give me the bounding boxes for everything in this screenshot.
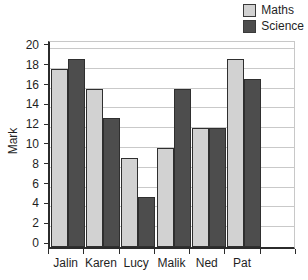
x-axis-label-ned: Ned — [189, 256, 224, 270]
y-axis-tick: 8 — [32, 158, 48, 170]
x-axis-labels: JalinKarenLucyMalikNedPat — [48, 256, 295, 274]
x-axis-label-karen: Karen — [83, 256, 118, 270]
legend-label-science: Science — [261, 20, 304, 32]
x-axis-tick-mark — [224, 249, 225, 254]
bar-chart: Maths Science Mark 02468101214161820 Jal… — [0, 0, 308, 280]
bar-jalin-maths — [51, 69, 68, 247]
y-axis-tick-label: 4 — [32, 197, 44, 209]
x-axis-tick-mark — [260, 249, 261, 254]
chart-legend: Maths Science — [243, 3, 304, 33]
legend-swatch-maths-icon — [243, 4, 256, 17]
x-axis-label-pat: Pat — [224, 256, 259, 270]
x-axis-label-lucy: Lucy — [119, 256, 154, 270]
x-axis-tick-mark — [48, 249, 49, 254]
x-axis-label-jalin: Jalin — [48, 256, 83, 270]
bar-ned-maths — [192, 128, 209, 247]
bar-malik-maths — [157, 148, 174, 247]
x-axis-tick-mark — [189, 249, 190, 254]
y-axis-tick: 4 — [32, 197, 48, 209]
x-axis-label-malik: Malik — [154, 256, 189, 270]
plot-area — [48, 41, 295, 249]
y-axis-tick-label: 16 — [26, 79, 44, 91]
bar-ned-science — [209, 128, 226, 247]
y-axis-tick-label: 8 — [32, 158, 44, 170]
bar-jalin-science — [68, 59, 85, 247]
y-axis-tick-label: 0 — [32, 237, 44, 249]
legend-swatch-science-icon — [243, 20, 256, 33]
y-axis-ticks: 02468101214161820 — [0, 41, 48, 249]
y-axis-tick-label: 12 — [26, 118, 44, 130]
y-axis-tick-label: 18 — [26, 59, 44, 71]
y-axis-tick: 14 — [26, 98, 48, 110]
bar-karen-science — [103, 118, 120, 247]
x-axis-tick-mark — [295, 249, 296, 254]
x-axis-tick-mark — [83, 249, 84, 254]
y-axis-tick: 0 — [32, 237, 48, 249]
y-axis-tick: 12 — [26, 118, 48, 130]
legend-label-maths: Maths — [261, 4, 294, 16]
bar-malik-science — [174, 89, 191, 247]
bars-layer — [50, 42, 294, 247]
legend-entry-maths: Maths — [243, 3, 294, 17]
y-axis-tick-label: 10 — [26, 138, 44, 150]
bar-karen-maths — [86, 89, 103, 247]
y-axis-tick: 20 — [26, 39, 48, 51]
y-axis-tick-label: 14 — [26, 98, 44, 110]
x-axis-tick-mark — [119, 249, 120, 254]
y-axis-tick: 6 — [32, 178, 48, 190]
y-axis-tick-label: 2 — [32, 217, 44, 229]
y-axis-tick: 18 — [26, 59, 48, 71]
bar-lucy-maths — [121, 158, 138, 247]
y-axis-tick-label: 20 — [26, 39, 44, 51]
bar-lucy-science — [138, 197, 155, 247]
y-axis-tick-label: 6 — [32, 178, 44, 190]
bar-pat-maths — [227, 59, 244, 247]
x-axis-ticks — [48, 249, 295, 255]
y-axis-tick: 16 — [26, 79, 48, 91]
y-axis-tick: 2 — [32, 217, 48, 229]
x-axis-tick-mark — [154, 249, 155, 254]
y-axis-tick: 10 — [26, 138, 48, 150]
legend-entry-science: Science — [243, 19, 304, 33]
bar-pat-science — [244, 79, 261, 247]
